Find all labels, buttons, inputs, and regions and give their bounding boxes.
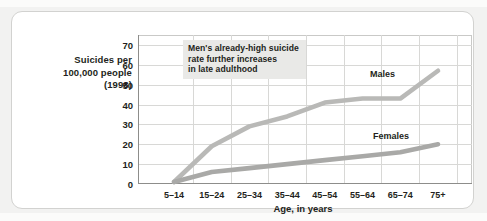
annotation-males-late-adulthood: Men's already-high suicide rate further … xyxy=(183,40,306,79)
series-label-males: Males xyxy=(370,69,395,79)
x-axis-title: Age, in years xyxy=(138,203,468,214)
figure-card: Suicides per 100,000 people (1998) 01020… xyxy=(11,11,474,209)
x-axis-tick-label: 55–64 xyxy=(350,190,375,200)
y-axis-tick-label: 40 xyxy=(122,99,133,110)
page-root: Suicides per 100,000 people (1998) 01020… xyxy=(0,0,487,221)
y-axis-tick-label: 30 xyxy=(122,119,133,130)
y-axis-tick-label: 50 xyxy=(122,79,133,90)
x-axis-tick-label: 25–34 xyxy=(237,190,262,200)
series-line-males xyxy=(174,71,438,182)
y-axis-tick-label: 60 xyxy=(122,59,133,70)
x-axis-tick-label: 35–44 xyxy=(275,190,300,200)
annotation-line-3: in late adulthood xyxy=(188,64,299,75)
x-axis-tick-label: 5–14 xyxy=(164,190,184,200)
y-axis-tick-label: 0 xyxy=(128,179,133,190)
y-axis-title-line-3: (1998) xyxy=(20,79,132,92)
y-axis-title-line-2: 100,000 people xyxy=(20,67,132,80)
y-axis-tick-label: 10 xyxy=(122,159,133,170)
y-axis-title-line-1: Suicides per xyxy=(20,54,132,67)
page-edge-top xyxy=(0,0,487,7)
series-label-females: Females xyxy=(373,131,409,141)
y-axis-tick-label: 20 xyxy=(122,139,133,150)
x-axis-tick-label: 45–54 xyxy=(312,190,337,200)
page-edge-bottom xyxy=(0,213,487,221)
plot-area: 010203040506070 5–1415–2425–3435–4445–54… xyxy=(138,35,472,184)
y-axis-tick-label: 70 xyxy=(122,39,133,50)
y-axis-title: Suicides per 100,000 people (1998) xyxy=(20,54,132,92)
annotation-line-1: Men's already-high suicide xyxy=(188,43,299,54)
x-axis-tick-label: 65–74 xyxy=(388,190,413,200)
x-axis-tick-label: 15–24 xyxy=(199,190,224,200)
x-axis-tick-label: 75+ xyxy=(430,190,445,200)
series-line-females xyxy=(174,144,438,182)
annotation-line-2: rate further increases xyxy=(188,54,299,65)
